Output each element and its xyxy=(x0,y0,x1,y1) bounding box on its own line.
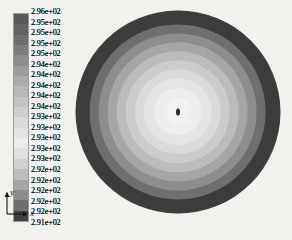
colorbar-band xyxy=(14,24,28,34)
colorbar-band xyxy=(14,66,28,76)
center-core-spot xyxy=(176,108,180,115)
colorbar-band xyxy=(14,138,28,148)
colorbar-band xyxy=(14,14,28,24)
colorbar-band xyxy=(14,35,28,45)
colorbar-band xyxy=(14,128,28,138)
colorbar-band xyxy=(14,159,28,169)
axis-label-y: y xyxy=(10,187,14,197)
colorbar-band xyxy=(14,45,28,55)
colorbar-band xyxy=(14,169,28,179)
axis-label-x: x xyxy=(30,208,34,218)
axis-triad-arrows xyxy=(0,186,41,232)
colorbar-band xyxy=(14,107,28,117)
axis-triad: y z x xyxy=(0,186,41,232)
colorbar-band xyxy=(14,86,28,96)
colorbar-band xyxy=(14,76,28,86)
colorbar-band xyxy=(14,117,28,127)
contour-plot-area xyxy=(70,0,292,240)
colorbar-band xyxy=(14,148,28,158)
contour-plot-figure: 2.96e+022.95e+022.95e+022.95e+022.95e+02… xyxy=(0,0,292,240)
colorbar-band xyxy=(14,97,28,107)
contour-rings-group xyxy=(75,10,280,213)
colorbar-band xyxy=(14,55,28,65)
